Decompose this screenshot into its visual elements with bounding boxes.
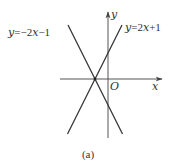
line-label-y-2x-plus1: y=2x+1: [124, 21, 161, 34]
origin-label: O: [110, 80, 119, 93]
figure-caption: (a): [82, 148, 95, 161]
x-axis-label: x: [152, 80, 159, 93]
intersection-point: [94, 78, 97, 81]
y-axis-label: y: [110, 8, 118, 21]
graph-figure: y x O y=−2x−1 y=2x+1 (a): [0, 0, 176, 167]
line-label-y-neg2x-minus1: y=−2x−1: [7, 26, 50, 39]
